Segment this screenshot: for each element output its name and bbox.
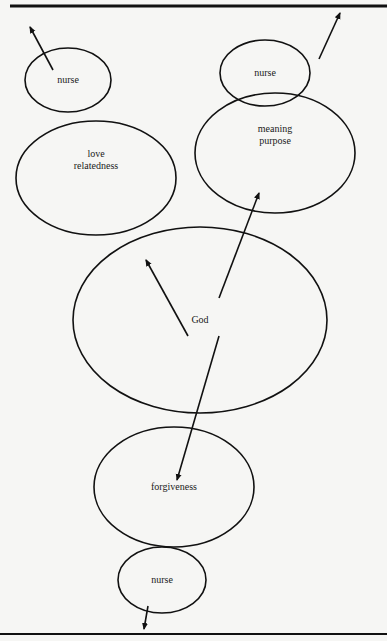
nurse-bottom-label: nurse [151, 574, 173, 586]
love-label: loverelatedness [74, 148, 118, 172]
meaning-ellipse [195, 93, 355, 213]
arrow-nurse-top-right-to-outside [319, 13, 340, 59]
nurse-top-right-label: nurse [254, 67, 276, 79]
nurse-top-left-label: nurse [57, 74, 79, 86]
arrow-god-to-forgiveness [177, 336, 219, 480]
forgiveness-label: forgiveness [151, 481, 197, 493]
arrow-nurse-bottom-to-outside [144, 606, 148, 629]
love-ellipse [16, 121, 176, 235]
arrow-god-to-love [146, 260, 188, 336]
arrow-nurse-top-left-to-outside [30, 27, 53, 70]
god-label: God [191, 314, 208, 326]
meaning-label: meaningpurpose [258, 123, 292, 147]
arrow-god-to-meaning [219, 193, 259, 298]
